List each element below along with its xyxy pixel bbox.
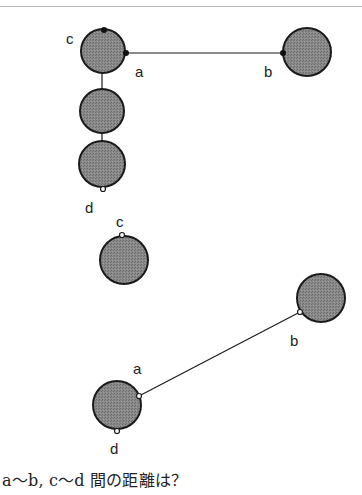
- ball: [283, 28, 331, 76]
- label-c: c: [66, 30, 74, 47]
- point-d-dot: [101, 187, 106, 192]
- ball: [100, 236, 148, 284]
- label-d: d: [85, 199, 93, 216]
- point-c-dot: [120, 233, 125, 238]
- top-figure: c a b d: [66, 27, 331, 216]
- point-d-dot: [115, 429, 120, 434]
- point-c-dot: [101, 27, 107, 33]
- label-c: c: [116, 213, 124, 230]
- ball: [93, 381, 141, 429]
- ball: [81, 29, 125, 73]
- ball: [79, 141, 125, 187]
- label-d: d: [110, 440, 118, 457]
- point-b-dot: [298, 310, 303, 315]
- label-b: b: [264, 63, 272, 80]
- label-b: b: [290, 332, 298, 349]
- distance-diagram: c a b d c b a d: [0, 0, 362, 495]
- distance-line-ab: [139, 312, 300, 396]
- bottom-figure: c b a d: [93, 213, 345, 457]
- ball: [297, 274, 345, 322]
- ball: [80, 89, 124, 133]
- point-b-dot: [280, 50, 286, 56]
- point-a-dot: [137, 394, 142, 399]
- label-a: a: [135, 63, 144, 80]
- question-text: a～b, c～d 間の距離は？: [2, 467, 187, 491]
- point-a-dot: [123, 50, 129, 56]
- label-a: a: [133, 360, 142, 377]
